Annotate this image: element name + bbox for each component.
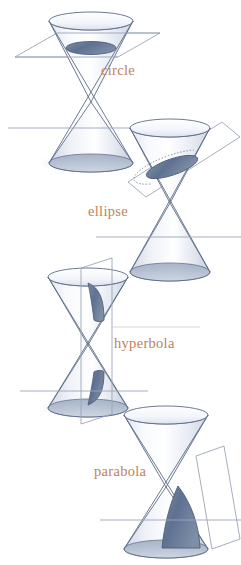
parabola-upper-rim	[124, 406, 208, 424]
circle-upper-rim	[49, 12, 133, 30]
panel-parabola	[100, 406, 241, 560]
label-ellipse: ellipse	[88, 204, 128, 219]
conic-sections-illustration	[0, 0, 241, 565]
panel-circle	[8, 12, 160, 174]
conic-sections-figure: circle ellipse hyperbola parabola	[0, 0, 241, 565]
circle-lower-base	[49, 154, 133, 172]
label-parabola: parabola	[94, 464, 146, 479]
label-circle: circle	[101, 63, 135, 78]
hyperbola-lower-base	[48, 399, 128, 417]
circle-section	[66, 42, 116, 55]
ellipse-lower-base	[130, 263, 210, 281]
parabola-cutting-plane	[196, 446, 240, 549]
label-hyperbola: hyperbola	[114, 336, 175, 351]
ellipse-upper-rim	[130, 119, 210, 137]
